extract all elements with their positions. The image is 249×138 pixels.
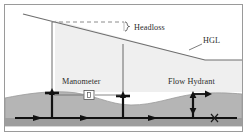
manometer-gauge-box: [84, 91, 94, 100]
figure-frame: Headloss HGL: [4, 4, 243, 132]
figure-root: Headloss HGL: [0, 0, 249, 138]
headloss-brace: [124, 22, 130, 31]
hgl-leader-line: [189, 44, 202, 50]
manometer-label: Manometer: [62, 77, 101, 86]
hgl-label: HGL: [203, 36, 220, 45]
headloss-label: Headloss: [134, 23, 165, 32]
flow-hydrant-label: Flow Hydrant: [168, 77, 216, 86]
hydraulic-diagram: Headloss HGL: [5, 5, 242, 131]
